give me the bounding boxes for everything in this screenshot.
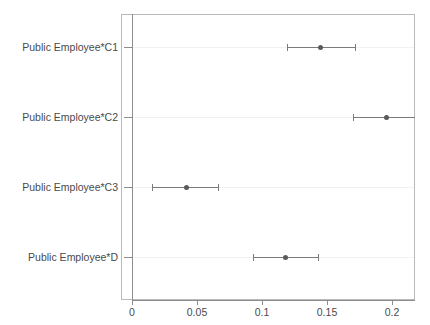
- x-tick-mark: [327, 300, 328, 305]
- row-guide: [133, 47, 414, 48]
- interval-cap-left-c3: [152, 184, 153, 191]
- interval-cap-right-c3: [218, 184, 219, 191]
- data-point-c3: [184, 185, 189, 190]
- interval-cap-left-c1: [287, 44, 288, 51]
- y-tick-mark: [124, 117, 133, 118]
- category-label-public-employee-d: Public Employee*D: [0, 251, 118, 263]
- x-tick-label-3: 0.15: [297, 306, 357, 318]
- interval-cap-right-d: [318, 254, 319, 261]
- y-tick-mark: [124, 47, 133, 48]
- x-tick-mark: [197, 300, 198, 305]
- x-tick-mark: [132, 300, 133, 305]
- interval-cap-left-d: [253, 254, 254, 261]
- category-label-public-employee-c3: Public Employee*C3: [0, 181, 118, 193]
- category-label-public-employee-c1: Public Employee*C1: [0, 41, 118, 53]
- data-point-c1: [318, 45, 323, 50]
- y-tick-mark: [124, 187, 133, 188]
- data-point-d: [283, 255, 288, 260]
- y-tick-mark: [124, 257, 133, 258]
- data-point-c2: [384, 115, 389, 120]
- category-label-public-employee-c2: Public Employee*C2: [0, 111, 118, 123]
- x-tick-mark: [392, 300, 393, 305]
- interval-cap-right-c1: [355, 44, 356, 51]
- x-tick-mark: [262, 300, 263, 305]
- x-axis-line: [132, 300, 415, 301]
- x-tick-label-2: 0.1: [232, 306, 292, 318]
- forest-plot-figure: 0 0.05 0.1 0.15 0.2 Public Employee*C1 P…: [0, 0, 430, 325]
- interval-cap-left-c2: [353, 114, 354, 121]
- x-tick-label-4: 0.2: [362, 306, 422, 318]
- x-tick-label-1: 0.05: [167, 306, 227, 318]
- x-tick-label-0: 0: [102, 306, 162, 318]
